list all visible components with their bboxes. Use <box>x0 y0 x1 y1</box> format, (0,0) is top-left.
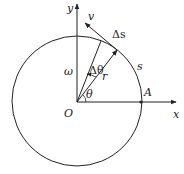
x-axis-label: x <box>173 108 180 121</box>
point-a-dot <box>139 100 142 103</box>
arc-label: s <box>137 60 143 73</box>
angle-increment-label: Δθ <box>89 64 104 77</box>
origin-label: O <box>64 107 73 120</box>
circular-motion-diagram: y x O A v Δs s r ω θ Δθ <box>0 0 184 174</box>
point-a-label: A <box>143 86 152 99</box>
arc-increment-label: Δs <box>112 28 126 41</box>
angle-label: θ <box>86 88 93 101</box>
angular-velocity-label: ω <box>64 65 73 78</box>
velocity-label: v <box>88 10 95 23</box>
y-axis-label: y <box>66 2 74 15</box>
